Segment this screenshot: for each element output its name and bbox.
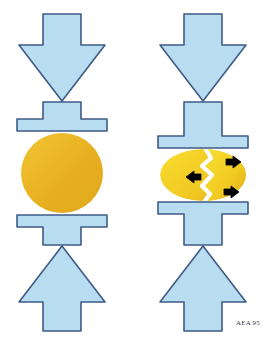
artist-signature: AEA 95 (236, 319, 260, 327)
compression-fracture-figure: AEA 95 (0, 0, 274, 344)
intact-specimen (21, 133, 103, 213)
figure-canvas: AEA 95 (0, 0, 274, 344)
